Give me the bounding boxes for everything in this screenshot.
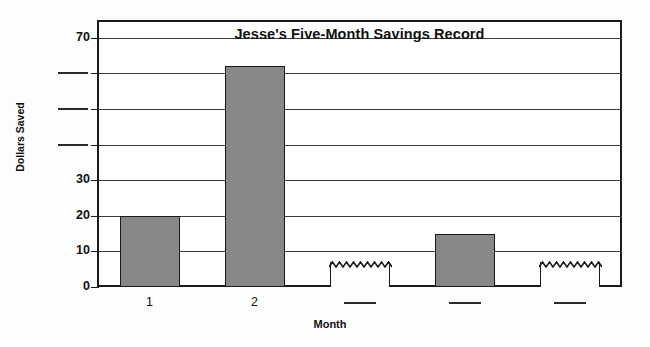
- y-axis-tick-label: 20: [54, 209, 90, 222]
- y-axis-tick-label: 30: [54, 173, 90, 186]
- x-axis-tick-label: 2: [215, 296, 295, 309]
- y-axis-tick-label: 0: [54, 280, 90, 293]
- y-axis-blank-rule: [58, 72, 88, 74]
- bar-3: [330, 262, 390, 287]
- bars-layer: [97, 20, 622, 287]
- chart-title: Jesse's Five-Month Savings Record: [97, 26, 622, 42]
- y-axis-blank-rule: [58, 108, 88, 110]
- y-axis-tick-label: 10: [54, 244, 90, 257]
- x-axis-blank-rule: [425, 296, 505, 304]
- bar-4: [435, 234, 495, 287]
- savings-bar-chart-screenshot: 010203070 12 Jesse's Five-Month Savings …: [0, 0, 650, 347]
- y-axis-tick-mark: [91, 287, 99, 288]
- bar-wavy-top-edge: [329, 261, 392, 268]
- bar-wavy-top-edge: [539, 261, 602, 268]
- x-axis-blank-rule-line: [449, 302, 481, 304]
- y-axis-title: Dollars Saved: [14, 87, 26, 187]
- x-axis-blank-rule-line: [554, 302, 586, 304]
- x-axis-title: Month: [285, 318, 375, 330]
- x-axis-blank-rule-line: [344, 302, 376, 304]
- y-axis-tick-label: 70: [54, 31, 90, 44]
- bar-5: [540, 262, 600, 287]
- bar-1: [120, 216, 180, 287]
- x-axis-blank-rule: [530, 296, 610, 304]
- x-axis-tick-label: 1: [110, 296, 190, 309]
- x-axis-blank-rule: [320, 296, 400, 304]
- bar-2: [225, 66, 285, 287]
- y-axis-blank-rule: [58, 144, 88, 146]
